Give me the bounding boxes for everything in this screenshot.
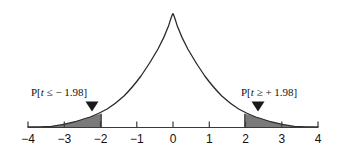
left-label-suffix: ] bbox=[84, 86, 88, 98]
left-label-operator: ≤ − bbox=[44, 86, 65, 98]
x-tick-label-2: 2 bbox=[234, 132, 258, 146]
right-label-prefix: P[ bbox=[241, 86, 251, 98]
left-tail-probability-label: P[t ≤ − 1.98] bbox=[31, 86, 87, 98]
left-marker-triangle bbox=[86, 102, 99, 112]
left-label-prefix: P[ bbox=[31, 86, 41, 98]
bell-curve bbox=[28, 14, 318, 127]
left-label-value: 1.98 bbox=[64, 86, 83, 98]
right-tail-probability-label: P[t ≥ + 1.98] bbox=[241, 86, 297, 98]
x-tick-label-neg2: −2 bbox=[89, 132, 113, 146]
right-marker-triangle bbox=[252, 102, 265, 112]
x-tick-label-neg3: −3 bbox=[52, 132, 76, 146]
t-distribution-figure: P[t ≤ − 1.98] P[t ≥ + 1.98] −4 −3 −2 −1 … bbox=[0, 0, 338, 156]
x-tick-label-3: 3 bbox=[270, 132, 294, 146]
right-label-suffix: ] bbox=[294, 86, 298, 98]
right-label-operator: ≥ + bbox=[254, 86, 275, 98]
x-tick-label-4: 4 bbox=[306, 132, 330, 146]
x-tick-label-0: 0 bbox=[161, 132, 185, 146]
x-tick-label-neg4: −4 bbox=[16, 132, 40, 146]
x-tick-label-1: 1 bbox=[197, 132, 221, 146]
x-tick-label-neg1: −1 bbox=[125, 132, 149, 146]
right-label-value: 1.98 bbox=[274, 86, 293, 98]
